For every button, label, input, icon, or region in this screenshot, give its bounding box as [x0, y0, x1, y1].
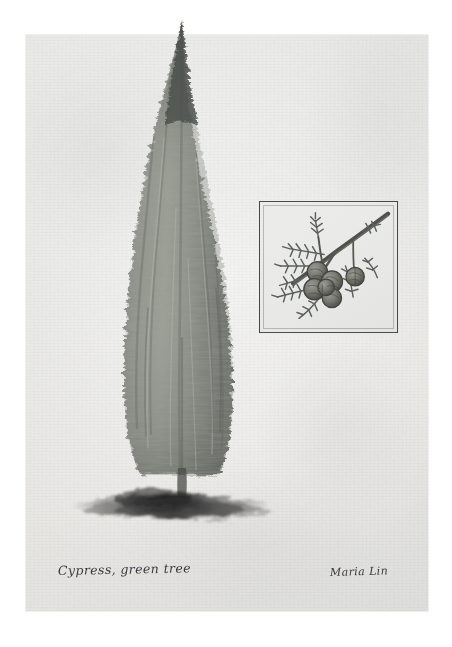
artist-signature: Maria Lin — [330, 564, 389, 579]
cypress-branch-detail-frame — [259, 201, 398, 333]
cypress-tree-illustration — [96, 8, 266, 508]
artwork-caption: Cypress, green tree — [58, 560, 191, 578]
cypress-branch-detail-illustration — [263, 205, 394, 329]
ground-shadow — [62, 470, 282, 540]
artwork-canvas: Cypress, green tree Maria Lin — [0, 0, 452, 647]
cone-single-right — [346, 267, 364, 285]
